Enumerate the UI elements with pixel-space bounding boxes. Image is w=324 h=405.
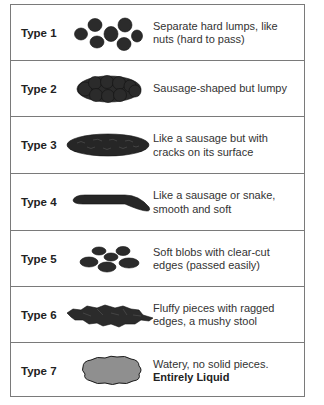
type-label: Type 1 bbox=[21, 27, 57, 39]
type-label: Type 6 bbox=[21, 309, 57, 321]
type-label: Type 3 bbox=[21, 139, 57, 151]
type-label: Type 7 bbox=[21, 365, 57, 377]
description: Watery, no solid pieces.Entirely Liquid bbox=[153, 357, 298, 384]
stool-chart-table: Type 1 Separate hard lumps, like nuts (h… bbox=[10, 4, 305, 397]
watery-puddle-icon bbox=[75, 351, 147, 391]
separate-hard-lumps-icon bbox=[69, 13, 151, 53]
lumpy-sausage-icon bbox=[69, 69, 151, 109]
table-row-type-4: Type 4 Like a sausage or snake, smooth a… bbox=[11, 174, 304, 231]
description: Soft blobs with clear-cut edges (passed … bbox=[153, 245, 298, 272]
table-row-type-1: Type 1 Separate hard lumps, like nuts (h… bbox=[11, 5, 304, 61]
soft-blobs-icon bbox=[77, 239, 143, 279]
table-row-type-6: Type 6 Fluffy pieces with ragged edges, … bbox=[11, 287, 304, 343]
table-row-type-5: Type 5 Soft blobs with clear-cut edges (… bbox=[11, 231, 304, 287]
type-label: Type 5 bbox=[21, 253, 57, 265]
smooth-snake-icon bbox=[67, 182, 155, 222]
fluffy-pieces-icon bbox=[63, 295, 155, 335]
description: Separate hard lumps, like nuts (hard to … bbox=[153, 19, 298, 46]
type-label: Type 2 bbox=[21, 83, 57, 95]
description-emphasis: Entirely Liquid bbox=[153, 371, 298, 385]
description: Fluffy pieces with ragged edges, a mushy… bbox=[153, 301, 298, 328]
description: Like a sausage but with cracks on its su… bbox=[153, 132, 298, 159]
cracked-sausage-icon bbox=[63, 125, 153, 165]
table-row-type-2: Type 2 Sausage-shaped but lumpy bbox=[11, 61, 304, 117]
type-label: Type 4 bbox=[21, 196, 57, 208]
table-row-type-3: Type 3 Like a sausage but with cracks on… bbox=[11, 117, 304, 174]
table-row-type-7: Type 7 Watery, no solid pieces.Entirely … bbox=[11, 343, 304, 398]
description: Like a sausage or snake, smooth and soft bbox=[153, 189, 298, 216]
description: Sausage-shaped but lumpy bbox=[153, 82, 298, 96]
